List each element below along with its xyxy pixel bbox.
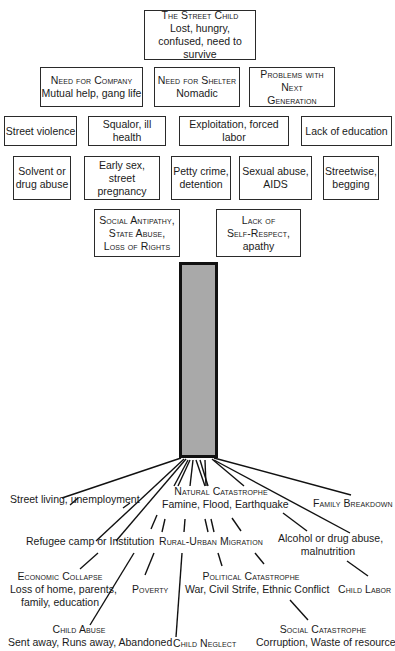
- refugee-label: Refugee camp or Institution: [26, 535, 154, 548]
- natural-catastrophe-label: Natural Catastrophe Famine, Flood, Earth…: [162, 485, 280, 511]
- political-catastrophe-text: War, Civil Strife, Ethnic Conflict: [185, 583, 317, 596]
- root-line-rural-1: [151, 515, 157, 529]
- economic-collapse-label: Economic Collapse Loss of home, parents,…: [10, 570, 110, 609]
- political-catastrophe-title: Political Catastrophe: [185, 570, 317, 583]
- social-catastrophe-label: Social Catastrophe Corruption, Waste of …: [256, 623, 390, 649]
- economic-collapse-line1: Loss of home, parents,: [10, 583, 110, 596]
- root-line-rural-2: [162, 519, 165, 532]
- root-line-natural-3: [190, 460, 193, 486]
- political-catastrophe-label: Political Catastrophe War, Civil Strife,…: [185, 570, 317, 596]
- root-line-natural-6: [205, 460, 206, 486]
- child-neglect-label: Child Neglect: [173, 637, 236, 650]
- economic-collapse-title: Economic Collapse: [10, 570, 110, 583]
- street-living-label: Street living, unemployment: [10, 493, 140, 506]
- child-abuse-label: Child Abuse Sent away, Runs away, Abando…: [8, 623, 150, 649]
- alcohol-label: Alcohol or drug abuse, malnutrition: [278, 532, 378, 558]
- economic-collapse-line2: family, education: [10, 596, 110, 609]
- natural-catastrophe-title: Natural Catastrophe: [162, 485, 280, 498]
- root-line-social: [290, 600, 308, 620]
- natural-catastrophe-text: Famine, Flood, Earthquake: [162, 498, 289, 510]
- root-line-natural-7: [212, 459, 244, 486]
- root-line-child-labor: [347, 561, 368, 576]
- family-breakdown-label: Family Breakdown: [313, 497, 393, 510]
- root-line-political: [218, 553, 222, 566]
- social-catastrophe-title: Social Catastrophe: [256, 623, 390, 636]
- alcohol-line1: Alcohol or drug abuse,: [278, 532, 378, 545]
- social-catastrophe-text: Corruption, Waste of resources: [256, 636, 390, 649]
- child-labor-label: Child Labor: [338, 583, 391, 596]
- rural-urban-label: Rural-Urban Migration: [159, 535, 263, 548]
- poverty-label: Poverty: [132, 583, 168, 596]
- root-line-child-neglect: [176, 553, 182, 637]
- child-abuse-text: Sent away, Runs away, Abandoned: [8, 636, 150, 649]
- root-line-alcohol-2: [283, 513, 307, 531]
- root-line-poverty: [145, 553, 154, 575]
- root-line-natural-2: [178, 460, 190, 486]
- root-line-political-2: [255, 553, 264, 564]
- root-line-rural-3: [184, 519, 185, 532]
- root-line-economic: [80, 553, 98, 569]
- root-line-rural-5: [211, 519, 214, 532]
- root-line-rural-4: [205, 519, 208, 532]
- root-line-rural-6: [232, 518, 241, 531]
- child-abuse-title: Child Abuse: [8, 623, 150, 636]
- alcohol-line2: malnutrition: [278, 545, 378, 558]
